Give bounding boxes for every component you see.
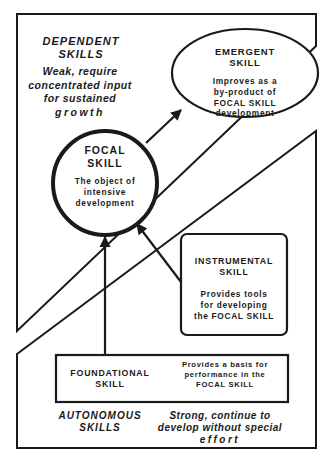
- dependent-desc-line: concentrated input: [20, 79, 140, 93]
- instrumental-desc-line: for developing: [182, 300, 286, 311]
- emergent-desc-line: FOCAL SKILL: [195, 98, 295, 109]
- dependent-desc-line: growth: [20, 106, 140, 120]
- instrumental-skill-description: Provides tools for developing the FOCAL …: [182, 289, 286, 321]
- dependent-desc-line: for sustained: [20, 92, 140, 106]
- instrumental-desc-line: the FOCAL SKILL: [182, 311, 286, 322]
- foundational-desc-line: FOCAL SKILL: [165, 380, 285, 390]
- autonomous-skills-title: AUTONOMOUS SKILLS: [50, 410, 150, 434]
- autonomous-skills-description: Strong, continue to develop without spec…: [150, 410, 290, 446]
- foundational-skill-title: FOUNDATIONAL SKILL: [60, 368, 160, 389]
- focal-title-line: SKILL: [60, 157, 150, 170]
- instrumental-desc-line: Provides tools: [182, 289, 286, 300]
- focal-desc-line: development: [55, 198, 155, 209]
- emergent-skill-title: EMERGENT SKILL: [195, 46, 295, 69]
- emergent-skill-description: Improves as a by-product of FOCAL SKILL …: [195, 76, 295, 119]
- autonomous-title-line: SKILLS: [50, 422, 150, 434]
- focal-title-line: FOCAL: [60, 144, 150, 157]
- instrumental-title-line: INSTRUMENTAL: [182, 256, 286, 267]
- dependent-desc-line: Weak, require: [20, 65, 140, 79]
- focal-skill-description: The object of intensive development: [55, 176, 155, 208]
- emergent-desc-line: Improves as a: [195, 76, 295, 87]
- dependent-skills-title: DEPENDENT SKILLS: [26, 35, 136, 61]
- focal-desc-line: intensive: [55, 187, 155, 198]
- emergent-title-line: EMERGENT: [195, 46, 295, 57]
- dependent-title-line: SKILLS: [26, 48, 136, 61]
- dependent-title-line: DEPENDENT: [26, 35, 136, 48]
- focal-desc-line: The object of: [55, 176, 155, 187]
- foundational-title-line: SKILL: [60, 379, 160, 390]
- arrow-focal-to-emergent: [146, 110, 181, 143]
- autonomous-desc-line: develop without special: [150, 422, 290, 434]
- foundational-skill-description: Provides a basis for performance in the …: [165, 360, 285, 390]
- emergent-desc-line: by-product of: [195, 87, 295, 98]
- focal-skill-title: FOCAL SKILL: [60, 144, 150, 169]
- autonomous-title-line: AUTONOMOUS: [50, 410, 150, 422]
- dependent-skills-description: Weak, require concentrated input for sus…: [20, 65, 140, 120]
- foundational-title-line: FOUNDATIONAL: [60, 368, 160, 379]
- autonomous-desc-line: Strong, continue to: [150, 410, 290, 422]
- arrow-instrumental-to-focal: [137, 224, 181, 282]
- foundational-desc-line: performance in the: [165, 370, 285, 380]
- instrumental-title-line: SKILL: [182, 267, 286, 278]
- emergent-desc-line: development: [195, 108, 295, 119]
- emergent-title-line: SKILL: [195, 57, 295, 68]
- instrumental-skill-title: INSTRUMENTAL SKILL: [182, 256, 286, 277]
- autonomous-desc-line: effort: [150, 434, 290, 446]
- foundational-desc-line: Provides a basis for: [165, 360, 285, 370]
